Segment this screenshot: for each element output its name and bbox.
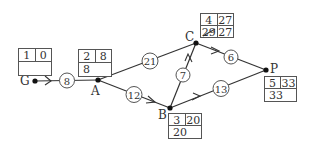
node-dot-b: [167, 105, 172, 110]
node-dot-a: [95, 77, 100, 82]
node-label-g: G: [20, 74, 30, 88]
node-box-p: 533 33: [264, 76, 297, 102]
node-label-c: C: [185, 30, 194, 44]
latest-time: [19, 62, 51, 75]
latest-time: 20: [169, 126, 201, 138]
earliest-time: 0: [36, 49, 52, 61]
latest-time: 27: [218, 26, 234, 38]
earliest-time: 33: [281, 77, 296, 88]
weight-label: 12: [128, 90, 141, 101]
node-label-b: B: [158, 108, 167, 122]
order-number: 2: [79, 50, 96, 62]
node-box-c: 427 2927: [200, 13, 234, 38]
node-dot-g: [32, 78, 37, 83]
node-box-b: 320 20: [168, 113, 202, 139]
weight-label: 6: [228, 52, 234, 63]
weight-label: 8: [64, 76, 70, 87]
node-label-p: P: [270, 62, 278, 76]
node-label-a: A: [91, 84, 100, 98]
earliest-time: 27: [218, 14, 234, 25]
earliest-time: 20: [186, 114, 202, 125]
order-number: 3: [169, 114, 186, 125]
earliest-time: 8: [96, 50, 112, 62]
node-dot-p: [263, 67, 268, 72]
node-box-a: 28 8: [78, 49, 112, 77]
latest-time-corrected: 29: [201, 26, 218, 38]
order-number: 1: [19, 49, 36, 61]
arrow-icon: [192, 93, 200, 100]
weight-label: 13: [215, 84, 228, 95]
order-number: 5: [265, 77, 281, 88]
weight-label: 21: [144, 56, 157, 67]
order-number: 4: [201, 14, 218, 25]
weight-label: 7: [180, 70, 186, 81]
latest-time: 33: [265, 89, 296, 101]
latest-time: 8: [79, 63, 111, 76]
node-box-g: 10: [18, 48, 52, 76]
